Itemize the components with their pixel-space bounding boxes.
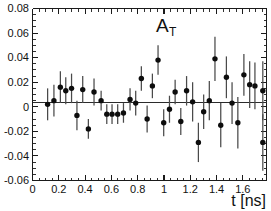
data-markers — [45, 56, 266, 145]
data-point — [172, 89, 177, 94]
x-tick-label: 1.4 — [209, 183, 224, 195]
data-point — [212, 56, 217, 61]
y-tick-label: -0.04 — [4, 150, 29, 162]
y-tick-label: 0.06 — [8, 27, 29, 39]
x-tick-label: 1.2 — [183, 183, 198, 195]
data-point — [150, 83, 155, 88]
data-point — [144, 116, 149, 121]
data-point — [91, 89, 96, 94]
y-tick-label: 0.08 — [8, 2, 29, 14]
data-point — [218, 123, 223, 128]
scatter-plot: -0.06-0.04-0.0200.020.040.060.08 00.20.4… — [0, 0, 271, 211]
x-axis-title: t [ns] — [231, 192, 266, 209]
data-point — [58, 84, 63, 89]
data-point — [241, 72, 246, 77]
data-point — [161, 120, 166, 125]
data-point — [45, 102, 50, 107]
y-axis-ticks — [33, 9, 267, 181]
y-tick-labels: -0.06-0.04-0.0200.020.040.060.08 — [4, 2, 29, 186]
data-point — [201, 109, 206, 114]
data-point — [63, 88, 68, 93]
data-point — [115, 111, 120, 116]
data-point — [74, 113, 79, 118]
axis-lines — [33, 9, 267, 181]
data-point — [139, 76, 144, 81]
data-point — [196, 140, 201, 145]
data-point — [155, 57, 160, 62]
data-point — [133, 100, 138, 105]
y-tick-label: 0.02 — [8, 76, 29, 88]
y-tick-label: -0.02 — [4, 125, 29, 137]
data-point — [109, 111, 114, 116]
data-point — [167, 107, 172, 112]
data-point — [69, 86, 74, 91]
y-tick-label: 0.04 — [8, 51, 29, 63]
data-point — [260, 88, 265, 93]
x-tick-label: 0.2 — [51, 183, 66, 195]
x-tick-label: 0.6 — [104, 183, 119, 195]
data-point — [178, 119, 183, 124]
plot-title: A — [156, 15, 169, 36]
x-tick-label: 0.8 — [130, 183, 145, 195]
data-point — [51, 98, 56, 103]
x-axis-ticks — [33, 9, 263, 181]
x-tick-label: 0.4 — [77, 183, 92, 195]
data-point — [127, 97, 132, 102]
data-point — [229, 100, 234, 105]
data-point — [235, 120, 240, 125]
x-tick-labels: 00.20.40.60.811.21.41.6 — [29, 183, 250, 195]
data-point — [190, 99, 195, 104]
data-point — [247, 82, 252, 87]
data-point — [207, 98, 212, 103]
y-tick-label: 0 — [23, 101, 29, 113]
data-point — [104, 111, 109, 116]
figure-panel: -0.06-0.04-0.0200.020.040.060.08 00.20.4… — [0, 0, 271, 211]
plot-title-subscript: T — [169, 25, 177, 39]
y-tick-label: -0.06 — [4, 174, 29, 186]
data-point — [224, 75, 229, 80]
data-point — [260, 140, 265, 145]
data-point — [184, 88, 189, 93]
data-point — [252, 83, 257, 88]
data-point — [80, 87, 85, 92]
data-point — [98, 98, 103, 103]
data-point — [121, 110, 126, 115]
x-tick-label: 1 — [161, 183, 167, 195]
data-point — [86, 126, 91, 131]
x-tick-label: 0 — [29, 183, 35, 195]
